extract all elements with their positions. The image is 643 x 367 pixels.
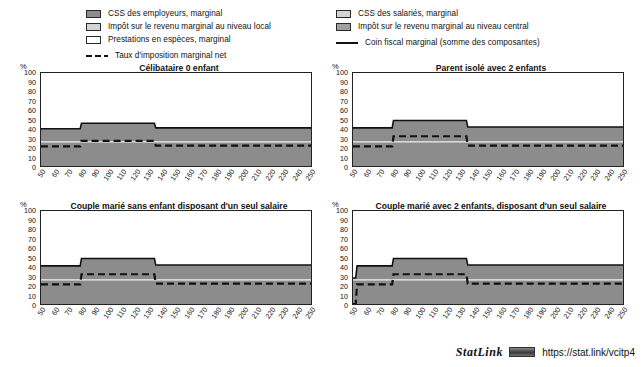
legend-item-label: Prestations en espèces, marginal: [108, 35, 231, 44]
x-tick-label: 250: [616, 168, 629, 182]
y-tick-label: 0: [344, 302, 348, 309]
x-tick-label: 50: [348, 168, 358, 179]
x-tick-label: 60: [50, 168, 60, 179]
y-tick-label: 60: [340, 107, 348, 114]
y-tick-label: 50: [340, 116, 348, 123]
y-tick-label: 80: [340, 226, 348, 233]
x-tick-label: 110: [427, 306, 439, 319]
legend-item-label: Impôt sur le revenu marginal au niveau c…: [358, 22, 529, 31]
y-tick-label: 20: [340, 283, 348, 290]
white-swatch-icon: [86, 36, 101, 44]
statlink-url[interactable]: https://stat.link/vcitp4: [542, 347, 635, 358]
x-tick-label: 210: [562, 168, 575, 182]
y-tick-label: 20: [340, 145, 348, 152]
x-tick-label: 100: [414, 306, 427, 320]
x-tick-label: 50: [348, 306, 358, 317]
plot-area: [40, 72, 312, 167]
y-tick-label: 90: [340, 216, 348, 223]
plot-frame: [40, 210, 312, 305]
x-tick-label: 190: [223, 306, 236, 320]
x-tick-label: 90: [90, 168, 100, 179]
x-tick-label: 230: [589, 306, 602, 320]
y-tick-label: 70: [28, 235, 36, 242]
y-tick-label: 100: [336, 69, 348, 76]
x-tick-label: 220: [576, 168, 589, 182]
x-tick-label: 250: [616, 306, 629, 320]
x-axis-labels: 5060708090100110120130140150160170180190…: [352, 168, 624, 198]
x-tick-label: 120: [441, 306, 454, 320]
x-tick-label: 130: [142, 306, 155, 320]
y-tick-label: 100: [24, 69, 36, 76]
y-tick-label: 50: [28, 254, 36, 261]
x-tick-label: 160: [183, 306, 196, 320]
y-tick-label: 40: [28, 126, 36, 133]
y-tick-label: 100: [24, 207, 36, 214]
y-axis-labels: 0102030405060708090100: [18, 72, 38, 167]
legend-item-label: Impôt sur le revenu marginal au niveau l…: [108, 22, 271, 31]
y-tick-label: 0: [32, 164, 36, 171]
x-tick-label: 230: [277, 306, 290, 320]
y-tick-label: 70: [28, 97, 36, 104]
x-tick-label: 140: [156, 306, 169, 320]
legend-item-coin-fiscal: Coin fiscal marginal (somme des composan…: [336, 37, 540, 48]
x-tick-label: 90: [402, 168, 412, 179]
x-tick-label: 120: [441, 168, 454, 182]
chart-panel-couple-marie-2-enfants: % Couple marié avec 2 enfants, disposant…: [330, 200, 630, 337]
x-tick-label: 110: [115, 168, 127, 181]
y-tick-label: 80: [340, 88, 348, 95]
x-tick-label: 240: [603, 168, 616, 182]
x-tick-label: 220: [264, 306, 277, 320]
y-tick-label: 60: [28, 107, 36, 114]
x-tick-label: 160: [183, 168, 196, 182]
x-tick-label: 90: [90, 306, 100, 317]
x-tick-label: 70: [63, 168, 73, 179]
y-axis-labels: 0102030405060708090100: [330, 210, 350, 305]
y-tick-label: 60: [28, 245, 36, 252]
x-tick-label: 250: [304, 306, 317, 320]
y-tick-label: 40: [340, 264, 348, 271]
y-tick-label: 0: [32, 302, 36, 309]
x-tick-label: 140: [468, 168, 481, 182]
x-tick-label: 210: [562, 306, 575, 320]
x-tick-label: 170: [196, 168, 209, 182]
x-tick-label: 250: [304, 168, 317, 182]
x-tick-label: 110: [427, 168, 439, 181]
x-axis-labels: 5060708090100110120130140150160170180190…: [40, 168, 312, 198]
y-tick-label: 30: [340, 135, 348, 142]
y-tick-label: 40: [28, 264, 36, 271]
x-axis-labels: 5060708090100110120130140150160170180190…: [352, 306, 624, 336]
dashed-line-key-icon: [86, 52, 108, 60]
legend-item-label: CSS des salariés, marginal: [358, 9, 458, 18]
plot-area: [352, 72, 624, 167]
x-tick-label: 150: [481, 168, 494, 182]
y-tick-label: 30: [28, 273, 36, 280]
legend-item-label: Coin fiscal marginal (somme des composan…: [365, 38, 540, 47]
x-tick-label: 240: [291, 306, 304, 320]
plot-frame: [352, 210, 624, 305]
x-tick-label: 180: [522, 306, 535, 320]
x-tick-label: 100: [102, 306, 115, 320]
legend-column-right: CSS des salariés, marginal Impôt sur le …: [336, 8, 540, 50]
x-tick-label: 130: [454, 168, 467, 182]
x-tick-label: 80: [389, 168, 399, 179]
x-tick-label: 240: [603, 306, 616, 320]
statlink-footer: StatLink https://stat.link/vcitp4: [0, 343, 643, 361]
x-tick-label: 60: [362, 168, 372, 179]
x-tick-label: 160: [495, 168, 508, 182]
x-tick-label: 90: [402, 306, 412, 317]
x-tick-label: 120: [129, 168, 142, 182]
x-tick-label: 140: [156, 168, 169, 182]
y-tick-label: 30: [28, 135, 36, 142]
x-tick-label: 160: [495, 306, 508, 320]
statlink-wordmark: StatLink: [456, 345, 503, 360]
chart-panel-celibataire-0-enfant: % Célibataire 0 enfant 01020304050607080…: [18, 62, 318, 199]
y-tick-label: 70: [340, 97, 348, 104]
x-tick-label: 230: [277, 168, 290, 182]
plot-area: [352, 210, 624, 305]
y-tick-label: 90: [340, 78, 348, 85]
x-tick-label: 110: [115, 306, 127, 319]
y-axis-labels: 0102030405060708090100: [18, 210, 38, 305]
mid-gray-swatch-icon: [336, 23, 351, 31]
x-tick-label: 200: [549, 168, 562, 182]
x-axis-labels: 5060708090100110120130140150160170180190…: [40, 306, 312, 336]
